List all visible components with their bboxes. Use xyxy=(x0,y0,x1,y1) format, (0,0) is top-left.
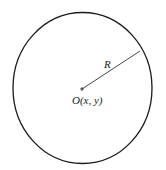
circle-diagram: R O(x, y) xyxy=(0,0,166,170)
radius-line xyxy=(82,51,140,89)
center-label: O(x, y) xyxy=(72,94,103,107)
radius-label: R xyxy=(103,58,111,70)
circle-outline xyxy=(13,13,152,164)
